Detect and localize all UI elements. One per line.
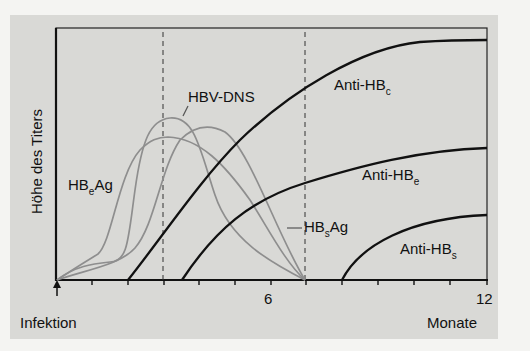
x-origin-label-infektion: Infektion xyxy=(20,314,77,331)
label-anti-hbc: Anti-HBc xyxy=(334,76,391,97)
label-hbv-dns: HBV-DNS xyxy=(188,88,255,105)
label-hbeag: HBeAg xyxy=(68,176,113,197)
label-anti-hbe: Anti-HBe xyxy=(362,166,420,187)
label-anti-hbs: Anti-HBs xyxy=(400,240,457,261)
leader-hbv-dns xyxy=(183,106,188,116)
infection-arrow-icon xyxy=(53,280,61,288)
label-hbsag: HBsAg xyxy=(304,218,348,239)
x-axis-label-monate: Monate xyxy=(427,314,477,331)
tick-label-6: 6 xyxy=(264,290,272,307)
curve-anti-hbe xyxy=(182,148,487,280)
tick-label-12: 12 xyxy=(476,290,493,307)
y-axis-label: Höhe des Titers xyxy=(28,109,45,214)
hepatitis-b-serology-chart: HBV-DNS HBeAg HBsAg Anti-HBc Anti-HBe An… xyxy=(0,0,530,351)
